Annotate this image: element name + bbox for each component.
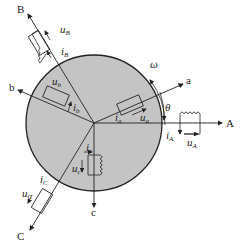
label-A: A [226,117,234,129]
uA-label: uA [187,136,198,150]
label-C: C [17,230,24,242]
label-a: a [186,74,191,86]
uB-label: uB [60,23,71,37]
iA-label: iA [166,129,174,143]
omega-label: ω [150,58,158,70]
theta-label: θ [165,101,171,113]
winding-diagram: A B C a b c ω θ iA uA uB iB ub ib ia ua … [0,0,246,245]
iB-label: iB [61,45,69,59]
uC-label: uC [22,187,33,201]
label-B: B [17,3,24,15]
iC-label: iC [40,173,48,187]
label-c: c [91,206,96,218]
label-b: b [9,81,15,93]
